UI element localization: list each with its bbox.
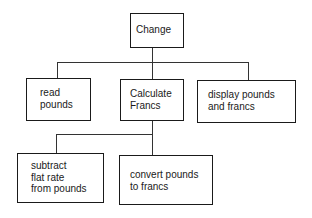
node-change: Change: [130, 13, 184, 48]
node-read-pounds: read pounds: [26, 78, 91, 121]
node-display-label: display pounds and francs: [208, 89, 275, 112]
node-convert-pounds: convert pounds to francs: [119, 155, 213, 205]
node-calculate-francs: Calculate Francs: [120, 79, 184, 121]
connector-level1-bus: [57, 62, 249, 63]
node-change-label: Change: [136, 24, 171, 36]
connector-to-read-pounds: [57, 62, 58, 78]
node-subtract-label: subtract flat rate from pounds: [31, 160, 87, 195]
connector-to-subtract: [56, 134, 57, 153]
node-calculate-francs-label: Calculate Francs: [130, 88, 172, 111]
connector-level2-bus: [56, 134, 153, 135]
node-convert-label: convert pounds to francs: [130, 169, 198, 192]
connector-calc-down: [152, 120, 153, 155]
node-subtract-flat-rate: subtract flat rate from pounds: [17, 153, 104, 203]
connector-root-down: [152, 47, 153, 63]
node-display-pounds-francs: display pounds and francs: [197, 80, 296, 123]
connector-to-calculate-francs: [152, 62, 153, 79]
connector-to-display: [248, 62, 249, 80]
node-read-pounds-label: read pounds: [40, 87, 73, 110]
